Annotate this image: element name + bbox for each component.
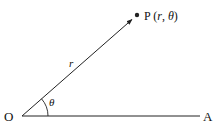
- angle-arc: [42, 99, 49, 116]
- point-p-close-paren: ): [174, 9, 178, 23]
- radius-label: r: [69, 57, 74, 69]
- point-p-dot: [135, 13, 139, 17]
- polar-coordinate-diagram: O A P (r, θ) r θ: [0, 0, 222, 130]
- origin-label: O: [4, 109, 13, 124]
- point-p-open-paren: (: [150, 9, 157, 23]
- axis-end-label: A: [203, 109, 213, 124]
- point-p-label: P (r, θ): [144, 9, 178, 23]
- angle-label: θ: [49, 96, 55, 108]
- radius-vector-arrow: [22, 20, 132, 117]
